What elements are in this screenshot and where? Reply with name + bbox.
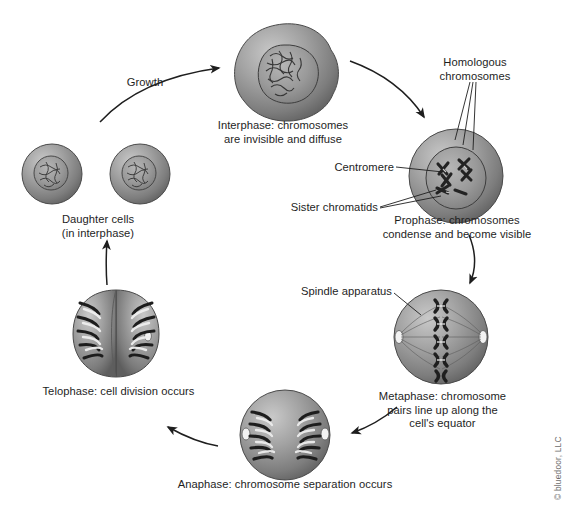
- cell-anaphase: [240, 390, 330, 480]
- cell-daughter-left: [22, 144, 82, 204]
- label-anaphase: Anaphase: chromosome separation occurs: [135, 478, 435, 492]
- arrow-prophase-metaphase: [469, 235, 475, 283]
- label-sister-chromatids: Sister chromatids: [258, 201, 378, 215]
- label-growth: Growth: [115, 76, 175, 90]
- cell-telophase: [73, 290, 159, 377]
- label-daughter-cells: Daughter cells (in interphase): [38, 213, 158, 240]
- cell-daughter-right: [110, 144, 170, 204]
- label-spindle-apparatus: Spindle apparatus: [282, 285, 392, 299]
- arrow-telophase-daughter: [106, 241, 107, 285]
- cell-interphase: [235, 24, 339, 121]
- copyright-notice: © bluedoor, LLC: [553, 436, 563, 500]
- arrow-interphase-prophase: [350, 61, 424, 117]
- label-interphase: Interphase: chromosomes are invisible an…: [183, 119, 383, 146]
- cell-cycle-diagram: Interphase: chromosomes are invisible an…: [0, 0, 573, 516]
- label-metaphase: Metaphase: chromosome pairs line up alon…: [355, 390, 530, 431]
- spindle-pole-left: [242, 428, 250, 440]
- cell-prophase: [409, 129, 503, 223]
- label-telophase: Telophase: cell division occurs: [16, 385, 221, 399]
- spindle-pole-right: [321, 428, 329, 440]
- label-homologous-chromosomes: Homologous chromosomes: [425, 56, 525, 83]
- label-centromere: Centromere: [312, 161, 394, 175]
- label-prophase: Prophase: chromosomes condense and becom…: [362, 214, 552, 241]
- arrow-anaphase-telophase: [168, 427, 218, 446]
